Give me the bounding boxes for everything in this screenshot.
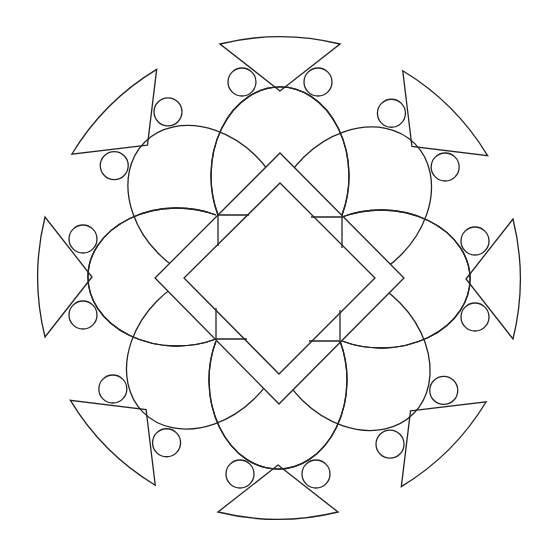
center-diamonds — [155, 153, 404, 404]
mandala-drawing — [0, 0, 558, 556]
